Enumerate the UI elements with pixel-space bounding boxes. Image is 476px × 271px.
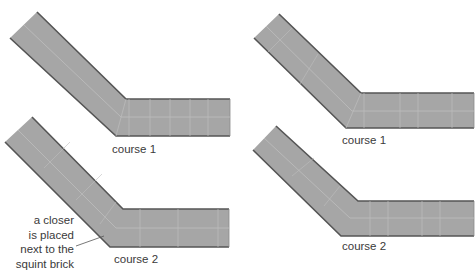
annotation-line-3: next to the	[0, 242, 74, 257]
closer-annotation: a closer is placed next to the squint br…	[0, 213, 74, 271]
annotation-line-2: is placed	[0, 228, 74, 243]
annotation-line-1: a closer	[0, 213, 74, 228]
left-course-1-label: course 1	[112, 144, 156, 156]
left-course-1-wall	[10, 12, 230, 136]
annotation-line-4: squint brick	[0, 257, 74, 271]
right-course-1-wall	[254, 14, 474, 128]
right-course-1-label: course 1	[342, 135, 386, 147]
right-course-2-label: course 2	[342, 241, 386, 253]
left-course-2-label: course 2	[114, 254, 158, 266]
